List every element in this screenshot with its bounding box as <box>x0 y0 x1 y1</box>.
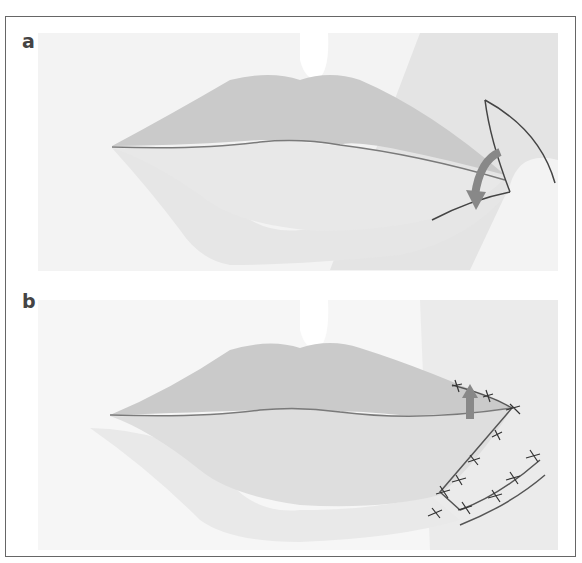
lips-illustration-b <box>0 280 582 563</box>
lips-illustration-a <box>0 0 582 280</box>
panel-b: b <box>0 280 582 563</box>
panel-a: a <box>0 0 582 280</box>
advancement-arrow <box>466 395 474 419</box>
